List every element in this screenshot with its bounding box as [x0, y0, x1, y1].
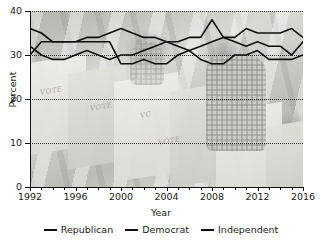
x-tick-minor — [280, 187, 281, 190]
x-tick-minor — [110, 187, 111, 190]
x-tick-minor — [155, 187, 156, 190]
x-tick-minor — [235, 187, 236, 190]
y-tick-label: 40 — [0, 5, 22, 16]
x-tick-label: 2008 — [192, 191, 232, 202]
chart-figure: VOTE VOTE VC VOTE VC 010203040 199219962… — [0, 0, 322, 240]
legend-item-republican[interactable]: Republican — [44, 224, 113, 235]
x-tick-label: 1996 — [56, 191, 96, 202]
legend-swatch-icon — [201, 229, 214, 231]
legend: RepublicanDemocratIndependent — [0, 224, 322, 235]
x-tick-label: 2004 — [147, 191, 187, 202]
x-tick-minor — [132, 187, 133, 190]
x-tick-minor — [292, 187, 293, 190]
x-tick-label: 2016 — [283, 191, 322, 202]
legend-label: Democrat — [142, 224, 189, 235]
plot-area: VOTE VOTE VC VOTE VC — [30, 11, 303, 187]
legend-item-democrat[interactable]: Democrat — [125, 224, 189, 235]
x-tick-label: 2000 — [101, 191, 141, 202]
x-axis-title: Year — [0, 207, 322, 218]
y-tick — [25, 143, 30, 144]
legend-label: Independent — [218, 224, 278, 235]
x-tick-minor — [269, 187, 270, 190]
legend-swatch-icon — [125, 229, 138, 231]
x-tick-minor — [189, 187, 190, 190]
x-tick-minor — [144, 187, 145, 190]
legend-label: Republican — [61, 224, 113, 235]
x-tick-minor — [246, 187, 247, 190]
series-line-independent — [30, 29, 303, 64]
legend-item-independent[interactable]: Independent — [201, 224, 278, 235]
y-tick-label: 10 — [0, 137, 22, 148]
x-tick-minor — [201, 187, 202, 190]
data-series-group — [30, 11, 303, 187]
x-tick-label: 1992 — [10, 191, 50, 202]
x-tick-minor — [223, 187, 224, 190]
y-tick — [25, 11, 30, 12]
x-tick-minor — [98, 187, 99, 190]
x-tick-minor — [178, 187, 179, 190]
y-axis-title: Percent — [7, 50, 18, 130]
x-tick-minor — [53, 187, 54, 190]
series-line-republican — [30, 29, 303, 64]
y-tick — [25, 99, 30, 100]
x-tick-minor — [64, 187, 65, 190]
y-tick — [25, 55, 30, 56]
x-tick-minor — [41, 187, 42, 190]
y-axis-line — [30, 11, 31, 187]
x-tick-label: 2012 — [238, 191, 278, 202]
x-tick-minor — [87, 187, 88, 190]
legend-swatch-icon — [44, 229, 57, 231]
